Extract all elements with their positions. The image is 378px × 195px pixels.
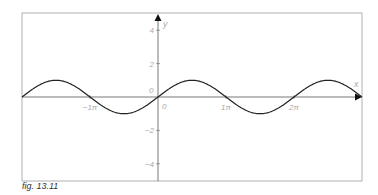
x-tick-label: 1π bbox=[221, 103, 231, 112]
x-axis-label: x bbox=[353, 79, 359, 89]
y-tick-label: 4 bbox=[150, 26, 155, 35]
y-tick-label: −2 bbox=[145, 126, 155, 135]
y-axis-arrow-icon bbox=[155, 14, 162, 21]
axis-labels: −1π1π2π42−2−400yx bbox=[83, 19, 359, 169]
x-tick-label: 2π bbox=[288, 103, 299, 112]
origin-label-y: 0 bbox=[149, 86, 154, 95]
y-tick-label: −4 bbox=[145, 160, 155, 169]
origin-label-x: 0 bbox=[162, 102, 167, 111]
y-axis-label: y bbox=[162, 19, 168, 29]
y-tick-label: 2 bbox=[149, 60, 155, 69]
sine-chart: −1π1π2π42−2−400yx bbox=[0, 0, 378, 195]
figure-caption: fig. 13.11 bbox=[22, 181, 58, 191]
x-tick-label: −1π bbox=[83, 103, 98, 112]
